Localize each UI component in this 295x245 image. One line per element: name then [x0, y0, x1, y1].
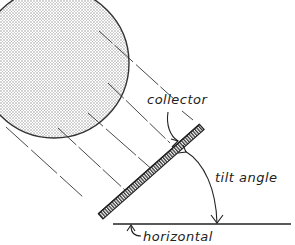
sun-icon [0, 0, 129, 138]
tilt-angle-label: tilt angle [215, 170, 278, 185]
collector-panel [98, 124, 204, 219]
horizontal-label: horizontal [143, 229, 213, 244]
horizontal-leader-arrow [127, 225, 141, 236]
collector-label: collector [147, 92, 207, 107]
solar-collector-diagram [0, 0, 295, 245]
